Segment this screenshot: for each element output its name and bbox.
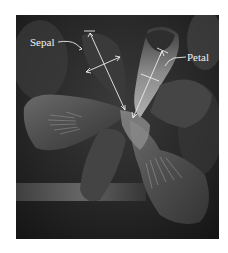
iris-photo: Sepal Petal bbox=[0, 0, 228, 253]
iris-figure: Sepal Petal bbox=[0, 0, 228, 253]
petal-label: Petal bbox=[187, 51, 209, 63]
sepal-label: Sepal bbox=[30, 36, 54, 48]
